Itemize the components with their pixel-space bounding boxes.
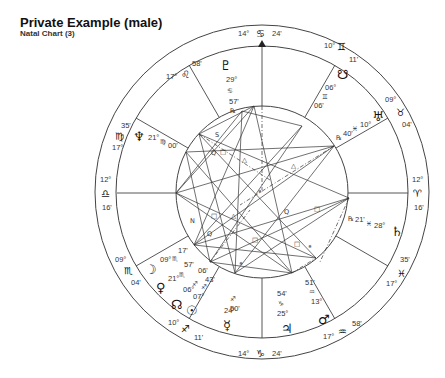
venus-icon: ♀ — [156, 280, 166, 295]
cusp-minute: 04' — [131, 278, 141, 287]
aspect-symbol: △ — [291, 162, 296, 170]
cusp-degree: 17° — [166, 72, 177, 81]
cancer-icon: ♋ — [227, 87, 233, 95]
cusp-degree: 17° — [112, 143, 123, 152]
gemini-icon: ♊ — [322, 93, 328, 101]
planet-degree: 06° — [325, 83, 336, 92]
mars-icon: ♂ — [318, 312, 330, 327]
libra-icon: ♎ — [101, 188, 110, 199]
cusp-minute: 24' — [272, 29, 282, 38]
cusp-degree: 10° — [324, 41, 335, 50]
aspect-symbol: Q — [284, 208, 289, 216]
planet-minute: 21' — [355, 215, 365, 224]
jupiter-icon: ♃ — [281, 321, 293, 336]
gemini-icon: ♊ — [337, 41, 346, 52]
cusp-degree: 17° — [323, 332, 334, 341]
capricorn-icon: ♑ — [278, 300, 284, 308]
pisces-icon: ♓ — [352, 125, 358, 133]
cusp-degree: 12° — [412, 175, 423, 184]
sagittarius-icon: ♐ — [230, 295, 236, 303]
capricorn-icon: ♑ — [256, 348, 265, 359]
planet-degree: 28° — [374, 221, 385, 230]
moon-icon: ☽ — [145, 262, 157, 277]
mc-arrow-icon — [258, 40, 266, 47]
aspect-symbol: □ — [314, 205, 320, 213]
retrograde-icon: ℞ — [336, 134, 342, 142]
aspect-symbol: □ — [211, 212, 217, 220]
planet-degree: 24° — [224, 306, 235, 315]
pisces-icon: ♓ — [366, 220, 372, 228]
aspect-symbol: △ — [231, 212, 236, 220]
neptune-icon: ♆ — [133, 129, 145, 144]
aspect-symbol: Q — [211, 149, 216, 157]
cusp-minute: 35' — [121, 121, 131, 130]
planet-degree: 13° — [311, 297, 322, 306]
mercury-icon: ☿ — [223, 318, 231, 333]
natal-chart-wheel: S Q □ △ N Q □ △ ⚹ □ Q ⚹ □ □ △ ⚹ 14° ♋ 24… — [0, 0, 445, 378]
cusp-degree: 14° — [238, 349, 249, 358]
cusp-11 — [189, 65, 219, 117]
aspect-symbol: Q — [207, 230, 212, 238]
uranus-icon: ♅ — [372, 109, 384, 124]
aries-icon: ♈ — [413, 188, 422, 199]
cusp-minute: 24' — [272, 349, 282, 358]
cusp-degree: 09° — [385, 95, 396, 104]
cusp-minute: 58' — [192, 59, 202, 68]
aspect-symbol: △ — [242, 156, 247, 164]
planet-degree: 25° — [277, 309, 288, 318]
planet-degree: 09° — [160, 255, 171, 264]
aspect-symbol: ⚹ — [239, 259, 243, 267]
cusp-minute: 16' — [414, 203, 424, 212]
aquarius-icon: ♒ — [309, 288, 315, 296]
planet-degree: 21° — [148, 133, 159, 142]
taurus-icon: ♉ — [396, 107, 405, 118]
planet-degree: 10° — [360, 120, 371, 129]
sagittarius-icon: ♐ — [181, 323, 190, 334]
south-node-icon: ☊ — [171, 297, 183, 312]
cusp-minute: 16' — [102, 203, 112, 212]
planet-minute: 57' — [229, 97, 239, 106]
sagittarius-icon: ♐ — [201, 283, 207, 291]
aspect-symbol: N — [190, 217, 195, 225]
center-glyph: ⚹ — [258, 187, 262, 195]
cancer-icon: ♋ — [256, 28, 265, 39]
leo-icon: ♌ — [181, 69, 190, 80]
planet-minute: 06' — [314, 101, 324, 110]
cusp-degree: 14° — [238, 29, 249, 38]
pisces-icon: ♓ — [397, 268, 406, 279]
planet-degree: 07° — [193, 292, 204, 301]
planet-minute: 06' — [198, 266, 208, 275]
aspect-symbol: □ — [220, 148, 226, 156]
pluto-icon: ♇ — [220, 58, 232, 73]
aspect-symbol: □ — [294, 240, 300, 248]
saturn-icon: ♄ — [391, 224, 403, 239]
scorpio-icon: ♏ — [179, 271, 185, 279]
planet-minute: 40' — [343, 129, 353, 138]
cusp-degree: 17° — [386, 279, 397, 288]
node-icon: ☋ — [337, 67, 349, 82]
planet-minute: 57' — [184, 260, 194, 269]
sun-icon: ☉ — [186, 303, 198, 318]
virgo-icon: ♍ — [160, 138, 166, 146]
cusp-minute: 58' — [352, 319, 362, 328]
virgo-icon: ♍ — [115, 131, 124, 142]
aquarius-icon: ♒ — [338, 326, 347, 337]
cusp-minute: 35' — [400, 255, 410, 264]
cusp-minute: 11' — [349, 55, 359, 64]
cusp-degree: 10° — [168, 318, 179, 327]
planet-minute: 00' — [168, 141, 178, 150]
retrograde-icon: ℞ — [230, 107, 236, 115]
aspect-symbol: S — [215, 131, 219, 139]
planet-degree: 21° — [168, 274, 179, 283]
planet-minute: 43' — [205, 275, 215, 284]
cusp-6 — [336, 236, 388, 266]
cusp-degree: 12° — [100, 175, 111, 184]
scorpio-icon: ♏ — [172, 255, 178, 263]
cusp-degree: 09° — [115, 255, 126, 264]
cusp-minute: 11' — [194, 333, 204, 342]
planet-degree: 29° — [226, 75, 237, 84]
sagittarius-icon: ♐ — [192, 280, 198, 288]
planets: ♇ 29° ♋ 57' ℞ ☋ 06° ♊ 06' ♅ 10° ♓ 40' ℞ … — [133, 58, 403, 336]
scorpio-icon: ♏ — [124, 265, 133, 276]
aspect-symbol: ⚹ — [308, 242, 312, 250]
